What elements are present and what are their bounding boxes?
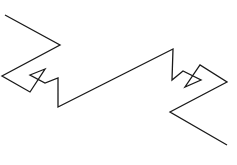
line-drawing-canvas xyxy=(0,0,237,165)
